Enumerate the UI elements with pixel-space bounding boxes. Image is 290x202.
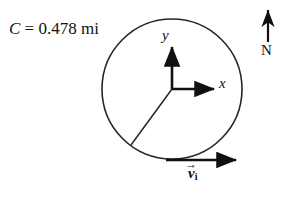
velocity-vector-label: →vi: [188, 166, 197, 182]
velocity-subscript: i: [195, 171, 198, 182]
y-axis-label: y: [162, 28, 169, 43]
north-label: N: [261, 43, 272, 58]
circumference-equals: =: [20, 19, 38, 38]
circumference-caption: C = 0.478 mi: [9, 20, 99, 37]
circular-track-diagram: C = 0.478 mi y x N →vi: [0, 0, 290, 202]
x-axis-label: x: [219, 76, 226, 91]
circumference-variable: C: [9, 19, 20, 38]
vector-accent-icon: →: [185, 158, 197, 170]
radius-line: [131, 89, 172, 145]
circumference-value: 0.478 mi: [38, 19, 98, 38]
velocity-symbol-group: →v: [188, 166, 195, 181]
